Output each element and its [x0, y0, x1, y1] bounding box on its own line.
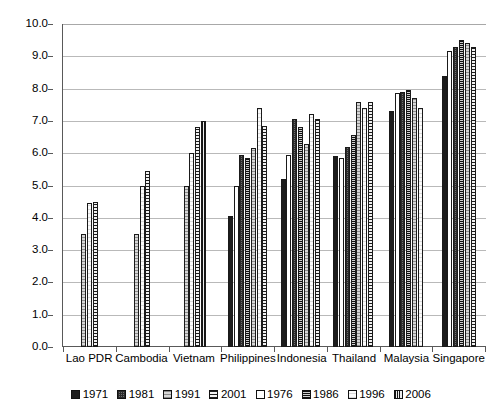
y-axis-tick-label: 3.0: [12, 244, 48, 256]
bar: [245, 158, 250, 347]
bar: [298, 127, 303, 347]
legend-label: 1971: [83, 388, 109, 400]
y-axis-tick-mark: [48, 282, 53, 283]
y-axis-tick-label: 0.0: [12, 341, 48, 353]
legend-item[interactable]: 1996: [348, 388, 385, 400]
bar: [286, 155, 291, 347]
bar: [459, 40, 464, 347]
x-axis-label: Philippines: [220, 352, 276, 364]
bar: [189, 153, 194, 347]
bar: [351, 135, 356, 347]
y-axis-tick-label: 8.0: [12, 83, 48, 95]
bar: [93, 202, 98, 347]
legend-swatch-icon: [209, 390, 218, 399]
x-axis-label: Thailand: [328, 352, 380, 364]
legend-label: 1986: [313, 388, 339, 400]
legend-item[interactable]: 1971: [71, 388, 108, 400]
y-axis-tick-label: 7.0: [12, 115, 48, 127]
y-axis-tick-mark: [48, 347, 53, 348]
legend-item[interactable]: 1976: [256, 388, 293, 400]
bar: [309, 114, 314, 347]
bar: [228, 216, 233, 347]
legend-item[interactable]: 2006: [394, 388, 431, 400]
bar: [201, 121, 206, 347]
legend-label: 1991: [175, 388, 201, 400]
bar-group: [380, 24, 433, 347]
y-axis-tick-label: 4.0: [12, 212, 48, 224]
x-axis-tick-mark: [432, 347, 433, 352]
bar: [471, 47, 476, 347]
legend-item[interactable]: 1986: [302, 388, 339, 400]
bar: [315, 119, 320, 347]
legend: 19711981199120011976198619962006: [0, 388, 502, 400]
legend-swatch-icon: [256, 390, 265, 399]
legend-swatch-icon: [302, 390, 311, 399]
bar: [368, 102, 373, 347]
y-axis-tick-label: 5.0: [12, 180, 48, 192]
bar: [400, 92, 405, 347]
x-axis-tick-mark: [221, 347, 222, 352]
bar-group: [221, 24, 274, 347]
bar: [257, 108, 262, 347]
bar-chart: 10.09.08.07.06.05.04.03.02.01.00.0 Lao P…: [0, 0, 502, 419]
y-axis: 10.09.08.07.06.05.04.03.02.01.00.0: [0, 24, 48, 347]
legend-label: 2001: [221, 388, 247, 400]
bar-group: [63, 24, 116, 347]
y-axis-tick-label: 10.0: [12, 18, 48, 30]
legend-item[interactable]: 2001: [209, 388, 246, 400]
bar: [304, 144, 309, 347]
bar: [281, 179, 286, 347]
x-axis-tick-mark: [274, 347, 275, 352]
legend-label: 1976: [267, 388, 293, 400]
legend-label: 1981: [129, 388, 155, 400]
bar-group: [274, 24, 327, 347]
bar-group: [169, 24, 222, 347]
bar: [81, 234, 86, 347]
x-axis-tick-mark: [327, 347, 328, 352]
bar-groups: [63, 24, 485, 347]
bar: [447, 51, 452, 347]
bar: [442, 76, 447, 347]
bar: [262, 126, 267, 347]
legend-swatch-icon: [117, 390, 126, 399]
x-axis-label: Vietnam: [168, 352, 220, 364]
legend-label: 2006: [405, 388, 431, 400]
y-axis-tick-mark: [48, 250, 53, 251]
x-axis-label: Singapore: [433, 352, 485, 364]
bar: [292, 119, 297, 347]
bar: [145, 171, 150, 347]
y-axis-tick-label: 6.0: [12, 147, 48, 159]
bar: [362, 108, 367, 347]
y-axis-tick-label: 9.0: [12, 50, 48, 62]
bar: [418, 108, 423, 347]
bar: [453, 47, 458, 347]
y-axis-tick-mark: [48, 24, 53, 25]
legend-swatch-icon: [163, 390, 172, 399]
y-axis-tick-mark: [48, 56, 53, 57]
bar: [140, 186, 145, 348]
legend-item[interactable]: 1981: [117, 388, 154, 400]
bar: [234, 186, 239, 348]
y-axis-tick-mark: [48, 218, 53, 219]
bar-group: [116, 24, 169, 347]
legend-item[interactable]: 1991: [163, 388, 200, 400]
bar: [134, 234, 139, 347]
legend-swatch-icon: [394, 390, 403, 399]
legend-label: 1996: [359, 388, 385, 400]
y-axis-tick-label: 2.0: [12, 276, 48, 288]
legend-swatch-icon: [71, 390, 80, 399]
x-axis-label: Malaysia: [380, 352, 432, 364]
y-axis-tick-mark: [48, 121, 53, 122]
x-axis-tick-mark: [485, 347, 486, 352]
y-axis-tick-mark: [48, 89, 53, 90]
x-axis-tick-mark: [63, 347, 64, 352]
bar: [333, 156, 338, 347]
y-axis-tick-mark: [48, 153, 53, 154]
bar-group: [432, 24, 485, 347]
x-axis-label: Indonesia: [276, 352, 328, 364]
legend-swatch-icon: [348, 390, 357, 399]
bar: [195, 127, 200, 347]
x-axis-labels: Lao PDRCambodiaVietnamPhilippinesIndones…: [63, 352, 485, 364]
bar: [389, 111, 394, 347]
bar: [395, 93, 400, 347]
